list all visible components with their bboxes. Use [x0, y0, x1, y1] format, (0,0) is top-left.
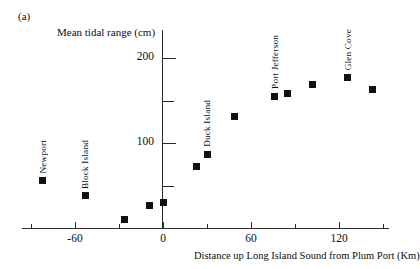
y-tick-major: [163, 143, 176, 144]
x-tick-label: 120: [319, 232, 359, 244]
x-axis-title: Distance up Long Island Sound from Plum …: [194, 250, 420, 261]
data-point: [344, 74, 351, 81]
x-tick-minor: [207, 224, 208, 229]
y-axis-title: Mean tidal range (cm): [57, 26, 155, 38]
x-tick-minor: [31, 224, 32, 229]
x-tick-label: 60: [231, 232, 271, 244]
data-point-label: Block Island: [80, 140, 90, 189]
data-point-label: Glen Cove: [343, 29, 353, 70]
data-point: [309, 81, 316, 88]
x-axis-line: [22, 228, 389, 229]
data-point: [39, 177, 46, 184]
panel-label: (a): [18, 10, 30, 22]
data-point: [146, 202, 153, 209]
y-tick-major: [163, 58, 176, 59]
data-point-label: Newport: [38, 140, 48, 174]
x-tick-major: [75, 222, 76, 229]
x-tick-major: [251, 222, 252, 229]
data-point: [284, 90, 291, 97]
y-tick-label: 200: [114, 50, 154, 62]
data-point: [271, 93, 278, 100]
x-tick-minor: [383, 224, 384, 229]
x-tick-minor: [295, 224, 296, 229]
x-tick-label: -60: [55, 232, 95, 244]
y-tick-minor: [163, 186, 174, 187]
x-tick-major: [339, 222, 340, 229]
data-point: [369, 86, 376, 93]
data-point: [160, 199, 167, 206]
x-tick-minor: [119, 224, 120, 229]
x-tick-label: 0: [143, 232, 183, 244]
y-tick-minor: [163, 101, 174, 102]
data-point-label: Port Jefferson: [270, 35, 280, 89]
data-point: [204, 151, 211, 158]
data-point: [121, 216, 128, 223]
data-point: [82, 192, 89, 199]
data-point: [231, 113, 238, 120]
y-tick-label: 100: [114, 135, 154, 147]
data-point: [193, 163, 200, 170]
x-tick-major: [163, 222, 164, 229]
data-point-label: Duck Island: [202, 100, 212, 147]
